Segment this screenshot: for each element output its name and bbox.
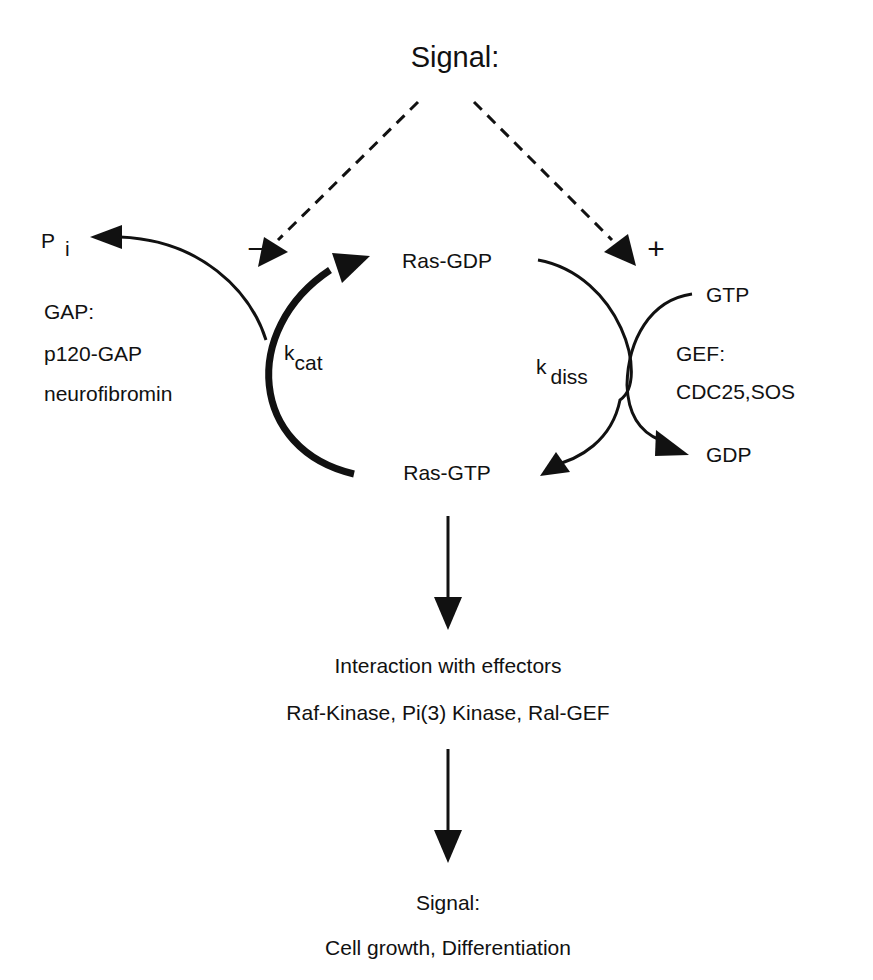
gap-pi-arrow xyxy=(90,225,266,340)
bottom-signal-outcome: Cell growth, Differentiation xyxy=(325,936,571,959)
activate-sign: + xyxy=(647,232,665,265)
ras-gtp-label: Ras-GTP xyxy=(403,461,491,484)
effectors-title: Interaction with effectors xyxy=(334,654,561,677)
down-arrow-to-signal xyxy=(434,749,462,863)
arrowhead-icon xyxy=(434,830,462,863)
down-arrow-to-effectors xyxy=(434,516,462,630)
dashed-arrow-to-gef xyxy=(474,102,636,266)
top-signal-label: Signal: xyxy=(411,41,500,73)
gdp-label: GDP xyxy=(706,443,752,466)
effectors-list: Raf-Kinase, Pi(3) Kinase, Ral-GEF xyxy=(286,701,609,724)
ras-cycle-diagram: Signal: − + Ras-GDP Ras-GTP Pi GAP: p120… xyxy=(0,0,873,980)
ras-gdp-label: Ras-GDP xyxy=(402,249,492,272)
arrowhead-icon xyxy=(655,430,689,456)
bottom-signal-title: Signal: xyxy=(416,891,480,914)
gtp-gdp-arrow xyxy=(627,294,692,456)
dashed-arrow-to-gap xyxy=(258,102,418,267)
gef-title: GEF: xyxy=(676,342,725,365)
inhibit-sign: − xyxy=(247,232,265,265)
arrowhead-icon xyxy=(540,452,570,476)
gap-member-1: p120-GAP xyxy=(44,342,142,365)
kdiss-label: kdiss xyxy=(536,355,588,388)
kcat-label: kcat xyxy=(284,341,323,374)
arrowhead-icon xyxy=(332,253,370,283)
gtp-label: GTP xyxy=(706,283,749,306)
gef-member-1: CDC25,SOS xyxy=(676,380,795,403)
gap-member-2: neurofibromin xyxy=(44,382,172,405)
arrowhead-icon xyxy=(90,225,122,249)
pi-label: Pi xyxy=(41,229,70,260)
gap-title: GAP: xyxy=(44,300,94,323)
arrowhead-icon xyxy=(434,597,462,630)
